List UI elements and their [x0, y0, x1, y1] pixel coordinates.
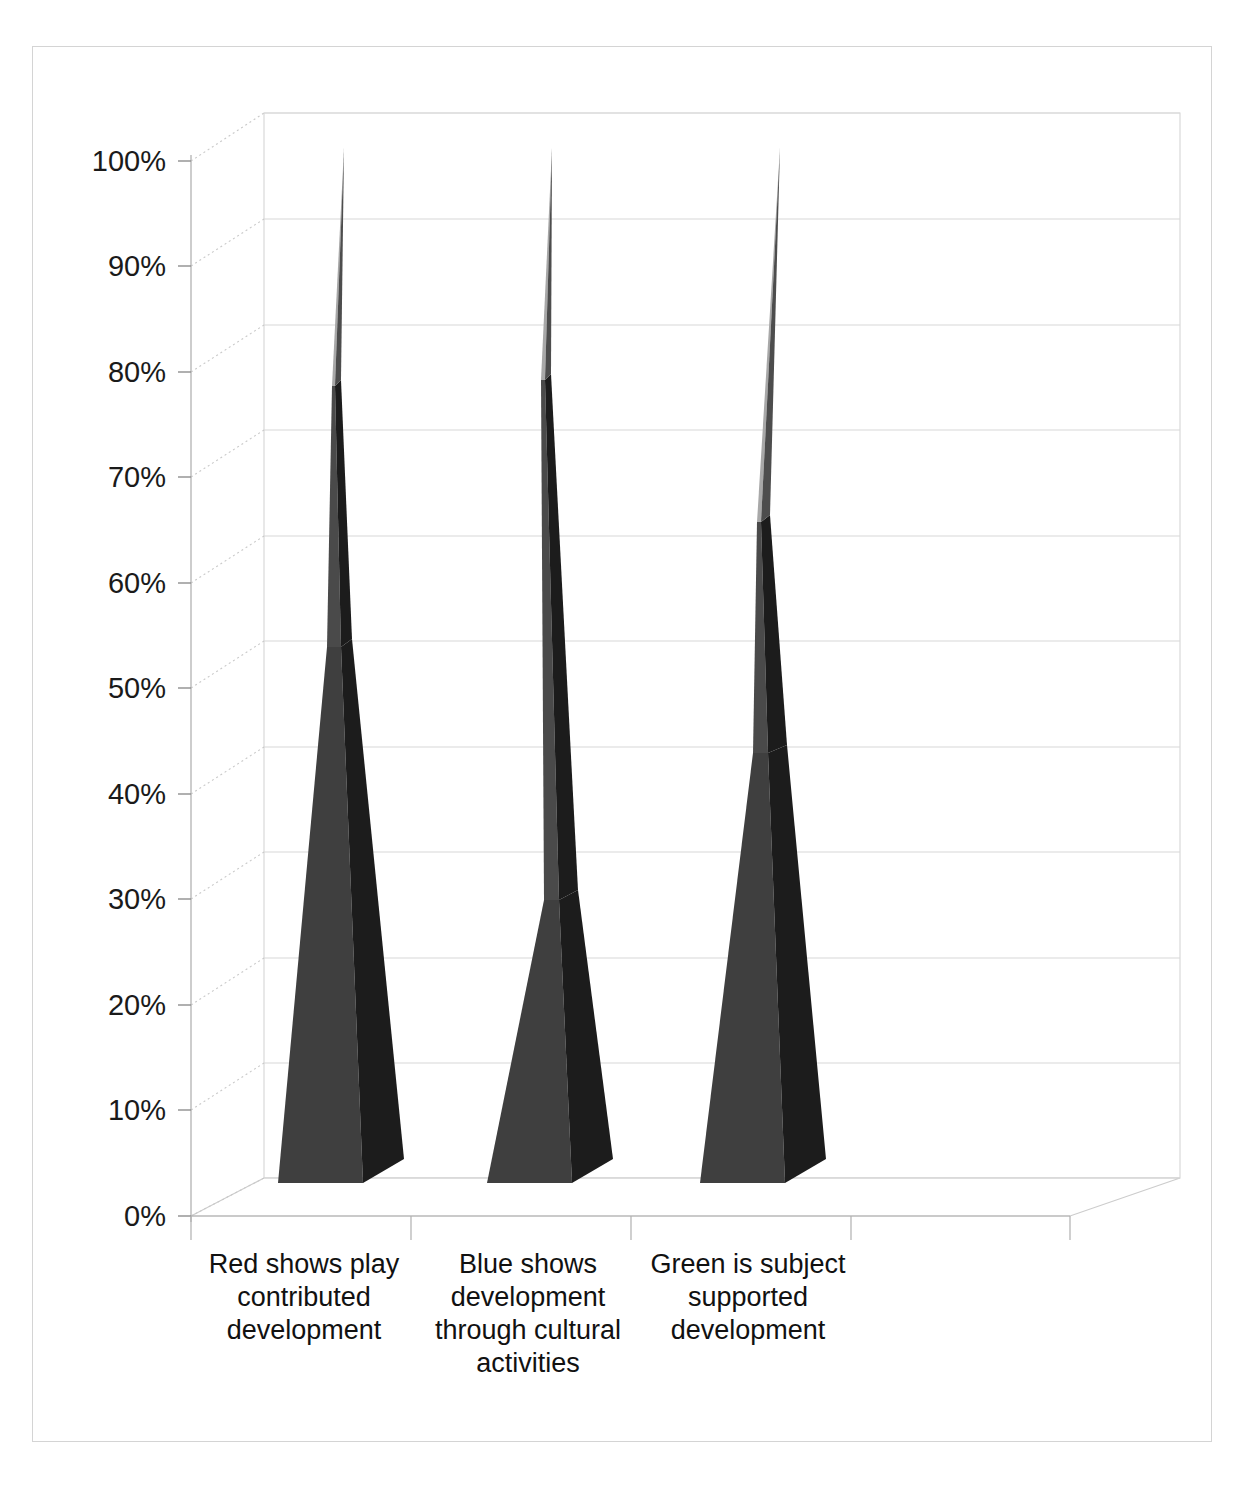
ytick-label-0: 0% [56, 1202, 166, 1231]
category-axis [191, 1216, 1070, 1240]
ytick-label-90: 90% [56, 252, 166, 281]
ytick-label-60: 60% [56, 569, 166, 598]
chart-floor [191, 1178, 1180, 1216]
category-label-3-line-2: supported [640, 1281, 856, 1314]
category-label-3-line-1: Green is subject [640, 1248, 856, 1281]
ytick-label-70: 70% [56, 463, 166, 492]
category-label-2-line-4: activities [420, 1347, 636, 1380]
ytick-label-100: 100% [56, 147, 166, 176]
category-label-2-line-2: development [420, 1281, 636, 1314]
category-label-3: Green is subject supported development [640, 1248, 856, 1347]
category-label-1: Red shows play contributed development [196, 1248, 412, 1347]
category-label-3-line-3: development [640, 1314, 856, 1347]
depth-connectors [191, 113, 264, 1216]
value-axis [178, 155, 191, 1222]
ytick-label-50: 50% [56, 674, 166, 703]
category-label-1-line-3: development [196, 1314, 412, 1347]
category-label-2: Blue shows development through cultural … [420, 1248, 636, 1380]
ytick-label-80: 80% [56, 358, 166, 387]
ytick-label-40: 40% [56, 780, 166, 809]
category-label-2-line-1: Blue shows [420, 1248, 636, 1281]
category-label-2-line-3: through cultural [420, 1314, 636, 1347]
ytick-label-20: 20% [56, 991, 166, 1020]
category-label-1-line-1: Red shows play [196, 1248, 412, 1281]
category-label-1-line-2: contributed [196, 1281, 412, 1314]
ytick-label-10: 10% [56, 1096, 166, 1125]
ytick-label-30: 30% [56, 885, 166, 914]
